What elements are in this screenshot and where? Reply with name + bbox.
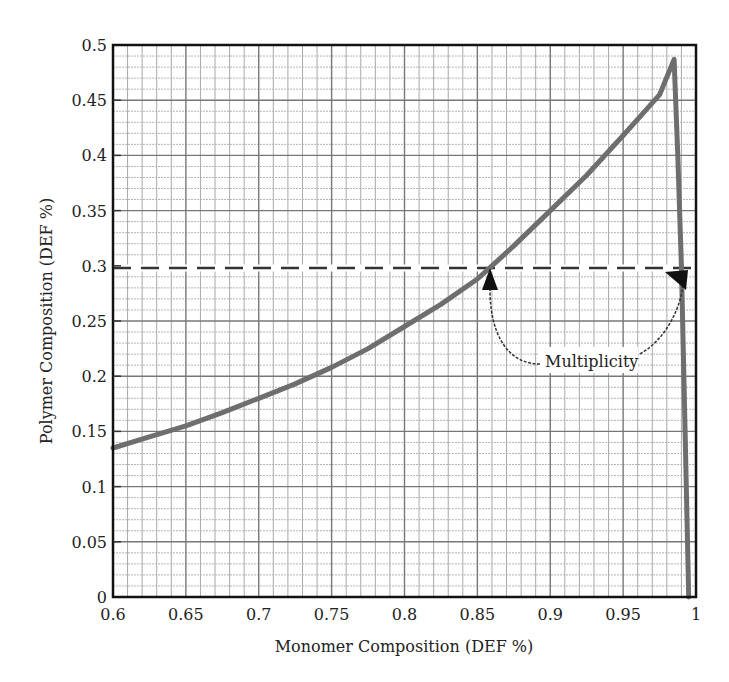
data-series-curve bbox=[113, 59, 689, 597]
x-tick-label: 0.75 bbox=[314, 605, 350, 624]
x-tick-label: 0.6 bbox=[100, 605, 125, 624]
x-tick-label: 0.8 bbox=[392, 605, 417, 624]
annotation-arrow-right-line bbox=[640, 285, 683, 354]
x-axis-ticks: 0.60.650.70.750.80.850.90.951 bbox=[100, 605, 701, 624]
x-tick-label: 0.65 bbox=[168, 605, 204, 624]
y-tick-label: 0.45 bbox=[71, 91, 107, 110]
y-tick-label: 0.3 bbox=[82, 257, 107, 276]
x-tick-label: 0.95 bbox=[605, 605, 641, 624]
y-tick-label: 0.35 bbox=[71, 202, 107, 221]
y-axis-title: Polymer Composition (DEF %) bbox=[37, 198, 56, 444]
annotation-arrow-left-line bbox=[490, 290, 540, 364]
y-tick-label: 0.4 bbox=[82, 146, 107, 165]
x-tick-label: 0.85 bbox=[460, 605, 496, 624]
y-tick-label: 0.5 bbox=[82, 36, 107, 55]
composition-chart: 0.60.650.70.750.80.850.90.951 00.050.10.… bbox=[0, 0, 729, 682]
y-tick-label: 0 bbox=[97, 588, 107, 607]
annotation-arrowhead-right bbox=[665, 270, 688, 290]
x-tick-label: 1 bbox=[691, 605, 701, 624]
x-axis-title: Monomer Composition (DEF %) bbox=[275, 637, 534, 656]
y-tick-label: 0.05 bbox=[71, 533, 107, 552]
y-tick-label: 0.25 bbox=[71, 312, 107, 331]
y-tick-label: 0.1 bbox=[82, 478, 107, 497]
x-tick-label: 0.7 bbox=[246, 605, 271, 624]
y-tick-label: 0.2 bbox=[82, 367, 107, 386]
y-tick-label: 0.15 bbox=[71, 422, 107, 441]
x-tick-label: 0.9 bbox=[538, 605, 563, 624]
annotation-label: Multiplicity bbox=[545, 352, 638, 371]
